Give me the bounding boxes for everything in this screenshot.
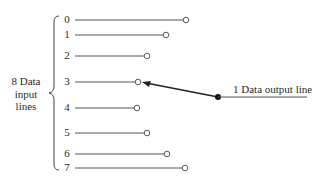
group-label-line-1: 8 Data: [6, 75, 46, 88]
input-terminal-3: [135, 79, 141, 85]
input-terminal-7: [182, 165, 188, 171]
arrowhead-icon: [142, 81, 151, 87]
group-label-line-2: input: [6, 88, 46, 101]
group-label-line-3: lines: [6, 100, 46, 113]
input-terminal-6: [164, 151, 170, 157]
input-number-0: 0: [63, 14, 71, 25]
input-terminal-2: [144, 53, 150, 59]
selection-arrow: [146, 83, 218, 97]
output-label: 1 Data output line: [233, 84, 312, 95]
input-group-brace: [49, 16, 59, 170]
input-number-3: 3: [63, 76, 71, 87]
input-number-2: 2: [63, 50, 71, 61]
input-number-7: 7: [63, 162, 71, 173]
input-terminal-5: [144, 130, 150, 136]
input-terminal-4: [134, 105, 140, 111]
input-terminal-0: [183, 17, 189, 23]
input-number-6: 6: [63, 148, 71, 159]
input-number-1: 1: [63, 29, 71, 40]
input-group-label: 8 Data input lines: [6, 75, 46, 113]
input-number-5: 5: [63, 127, 71, 138]
input-number-4: 4: [63, 102, 71, 113]
input-terminal-1: [163, 32, 169, 38]
